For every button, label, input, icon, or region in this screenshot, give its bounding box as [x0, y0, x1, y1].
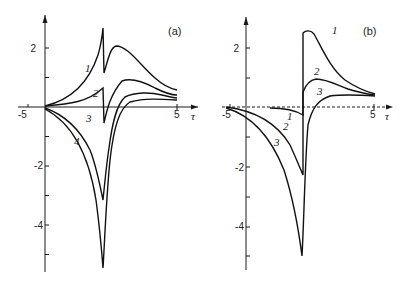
x-axis-arrow-b	[386, 105, 393, 110]
curve-3-a	[45, 93, 177, 150]
x-tick-neg5-a: -5	[18, 109, 27, 120]
panel-b: 2 -2 -4 -5 5 τ (b) 1 2 3 1 2 3	[222, 17, 393, 270]
curve-label-4-a: 4	[74, 135, 80, 147]
x-tick-5-a: 5	[174, 109, 180, 120]
x-tick-neg5-b: -5	[222, 109, 231, 120]
curve-label-2-b: 2	[314, 65, 320, 77]
x-axis-label-a: τ	[191, 110, 196, 122]
panel-label-b: (b)	[363, 25, 376, 37]
panel-label-a: (a)	[168, 25, 181, 37]
figure: 2 -2 -4 -5 5 τ (a) 1 2 3 4 2	[0, 0, 410, 289]
curve-label-3-b: 3	[316, 85, 323, 97]
y-tick-neg4-a: -4	[34, 220, 43, 231]
curve-2-b	[226, 79, 375, 175]
curve-label-1-b: 1	[332, 24, 338, 36]
curve-label-2-b-lower: 2	[283, 120, 289, 132]
y-axis-arrow-b	[244, 17, 249, 25]
curve-label-3-b-lower: 3	[273, 136, 280, 148]
curve-3-a-lower	[90, 148, 109, 200]
y-tick-neg2-b: -2	[235, 162, 244, 173]
panel-a: 2 -2 -4 -5 5 τ (a) 1 2 3 4	[18, 15, 198, 272]
x-tick-5-b: 5	[370, 109, 376, 120]
curve-4-a	[45, 99, 177, 268]
curve-label-3-a: 3	[85, 112, 92, 124]
curve-1-b	[270, 31, 375, 115]
y-axis-arrow-a	[43, 15, 48, 23]
y-tick-neg4-b: -4	[235, 221, 244, 232]
x-axis-arrow-a	[191, 105, 198, 110]
y-tick-2-b: 2	[233, 43, 239, 54]
curve-2-a	[45, 80, 177, 123]
curve-label-2-a: 2	[93, 87, 99, 99]
y-tick-neg2-a: -2	[34, 160, 43, 171]
curve-label-1-a: 1	[85, 62, 91, 74]
curve-3-b	[226, 95, 375, 256]
y-tick-2-a: 2	[30, 43, 36, 54]
x-axis-label-b: τ	[385, 110, 390, 122]
